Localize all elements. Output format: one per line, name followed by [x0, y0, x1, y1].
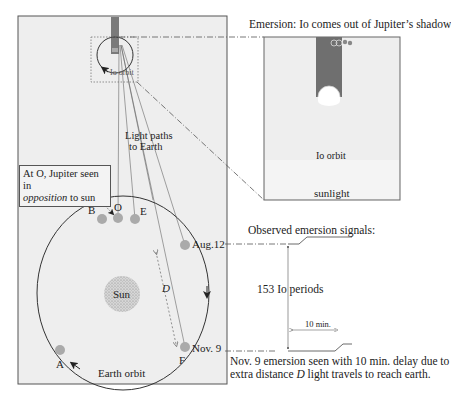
earth-position-F — [180, 342, 190, 352]
light-paths-label-line2: to Earth — [129, 141, 163, 153]
caption-line2: extra distance D light travels to reach … — [230, 368, 431, 380]
callout-text-1: At O, Jupiter seen in — [23, 168, 99, 191]
distance-D-label: D — [162, 282, 170, 294]
label-F: F — [179, 354, 185, 366]
caption-line1: Nov. 9 emersion seen with 10 min. delay … — [230, 355, 449, 367]
label-O: O — [114, 201, 122, 213]
opposition-callout: At O, Jupiter seen in opposition to sun — [19, 165, 111, 207]
earth-position-E — [130, 214, 140, 224]
sun-label: Sun — [113, 288, 130, 300]
label-A: A — [56, 358, 64, 370]
inset-io-orbit-label: Io orbit — [316, 150, 346, 162]
inset-sunlight-label: sunlight — [314, 187, 349, 199]
earth-position-B — [97, 214, 107, 224]
label-nov9: Nov. 9 — [192, 342, 221, 354]
signals-title: Observed emersion signals: — [248, 224, 375, 236]
earth-position-aug12 — [180, 240, 190, 250]
signal-trace-nov9 — [288, 344, 352, 351]
earth-position-O — [113, 213, 123, 223]
callout-text-2: to sun — [67, 192, 95, 203]
caption-line2-post: light travels to reach earth. — [305, 368, 431, 380]
jupiter-shadow-tip — [112, 48, 118, 52]
caption-line2-pre: extra distance — [230, 368, 296, 380]
inset-title: Emersion: Io comes out of Jupiter’s shad… — [249, 18, 451, 30]
inset-io-position — [343, 40, 347, 44]
signal-trace-aug12 — [288, 237, 352, 244]
inset-io-position — [348, 41, 352, 45]
label-E: E — [140, 205, 147, 217]
earth-position-A — [55, 345, 65, 355]
periods-label: 153 Io periods — [257, 283, 323, 295]
io-orbit-small-label: Io orbit — [110, 68, 134, 77]
label-B: B — [88, 204, 95, 216]
period-bar-tick — [287, 347, 289, 349]
callout-text-italic: opposition — [23, 192, 67, 203]
label-aug12: Aug.12 — [192, 238, 225, 250]
earth-orbit-label: Earth orbit — [98, 367, 145, 379]
delay-label: 10 min. — [305, 320, 331, 329]
caption-line2-italic: D — [296, 368, 304, 380]
period-bar-tick — [287, 246, 289, 248]
